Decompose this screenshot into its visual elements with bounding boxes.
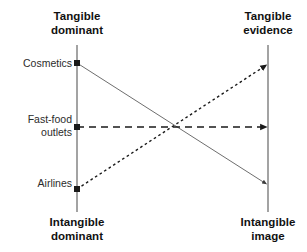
diagram-canvas	[0, 0, 307, 252]
series-line-airlines	[74, 65, 266, 192]
series-start-marker-cosmetics	[74, 60, 80, 66]
tangibility-spectrum-diagram: Tangible dominant Tangible evidence Inta…	[0, 0, 307, 252]
series-start-marker-airlines	[74, 186, 80, 192]
series-line-cosmetics	[74, 60, 266, 184]
series-start-marker-fast-food-outlets	[74, 124, 80, 130]
series-line-fast-food-outlets	[74, 124, 267, 130]
